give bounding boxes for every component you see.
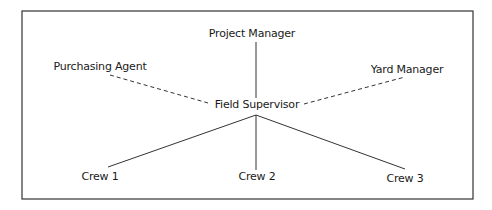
node-crew-3: Crew 3 — [386, 172, 423, 185]
edge-pa-fs — [110, 75, 208, 103]
node-crew-1: Crew 1 — [81, 170, 118, 183]
node-project-manager: Project Manager — [209, 27, 295, 40]
node-field-supervisor: Field Supervisor — [215, 98, 299, 111]
edge-ym-fs — [304, 77, 405, 104]
edge-fs-crew1 — [108, 115, 256, 167]
node-crew-2: Crew 2 — [238, 170, 275, 183]
node-purchasing-agent: Purchasing Agent — [53, 60, 146, 73]
node-yard-manager: Yard Manager — [371, 63, 444, 76]
edge-fs-crew3 — [256, 115, 405, 169]
